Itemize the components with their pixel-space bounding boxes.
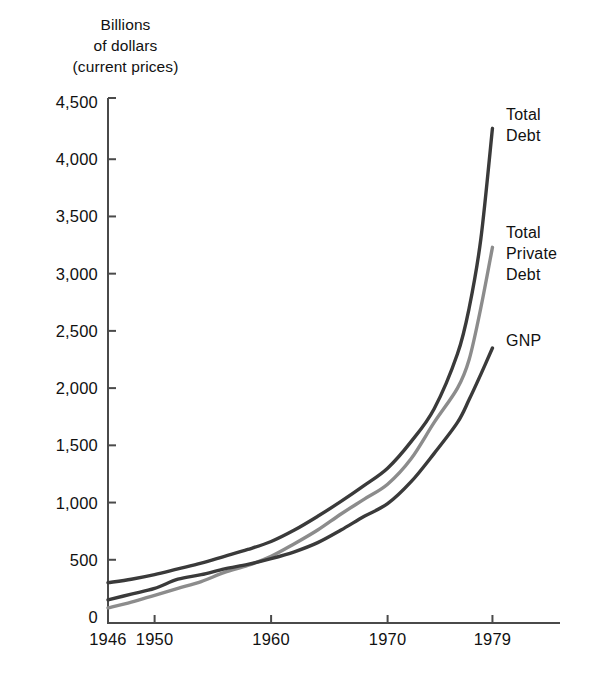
x-axis-tick-label: 1946 <box>89 630 127 649</box>
series-label-gnp: GNP <box>506 330 541 351</box>
series-label-total-debt: TotalDebt <box>506 104 541 146</box>
series-label-line: Debt <box>506 125 541 146</box>
y-axis-tick-label: 0 <box>22 608 98 627</box>
series-label-line: Total <box>506 104 541 125</box>
series-label-line: Debt <box>506 264 557 285</box>
chart-canvas: Billions of dollars (current prices) 4,5… <box>0 0 605 692</box>
y-axis-tick-label: 1,500 <box>22 436 98 455</box>
series-line-gnp <box>108 348 492 600</box>
y-axis-tick-label: 3,000 <box>22 264 98 283</box>
series-line-total-private-debt <box>108 247 492 608</box>
series-label-total-private-debt: TotalPrivateDebt <box>506 222 557 285</box>
y-axis-tick-label: 4,500 <box>22 93 98 112</box>
x-axis-tick-label: 1960 <box>252 630 290 649</box>
y-axis-tick-label: 2,000 <box>22 379 98 398</box>
y-axis-tick-label: 3,500 <box>22 207 98 226</box>
series-label-line: Total <box>506 222 557 243</box>
series-label-line: GNP <box>506 330 541 351</box>
y-axis-tick-label: 1,000 <box>22 493 98 512</box>
y-axis-tick-label: 4,000 <box>22 150 98 169</box>
series-line-total-debt <box>108 128 492 582</box>
y-axis-tick-label: 500 <box>22 550 98 569</box>
x-axis-tick-label: 1979 <box>474 630 512 649</box>
series-label-line: Private <box>506 243 557 264</box>
y-axis-tick-label: 2,500 <box>22 321 98 340</box>
axis-spines <box>108 98 560 623</box>
x-axis-tick-label: 1950 <box>136 630 174 649</box>
x-axis-tick-label: 1970 <box>369 630 407 649</box>
